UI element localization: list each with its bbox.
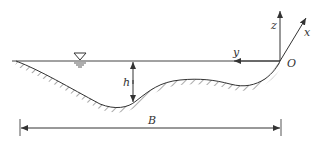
free-surface-symbol-icon xyxy=(74,53,86,67)
x-axis-arrow xyxy=(280,18,306,61)
origin-label: O xyxy=(287,57,296,70)
channel-bed xyxy=(16,61,280,110)
z-axis-label: z xyxy=(270,19,277,32)
depth-label: h xyxy=(123,76,130,89)
channel-cross-section-diagram: y z x O h B xyxy=(0,0,323,148)
x-axis-label: x xyxy=(304,26,311,39)
y-axis-label: y xyxy=(232,46,240,59)
width-label: B xyxy=(147,114,156,127)
